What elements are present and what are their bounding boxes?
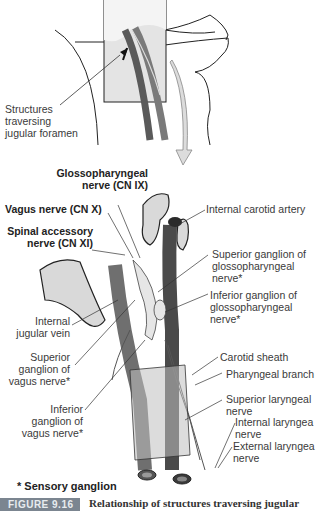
label-internal-jugular-vein: Internal jugular vein: [0, 315, 70, 339]
label-vagus-nerve: Vagus nerve (CN X): [5, 203, 102, 215]
label-superior-ganglion-glossopharyngeal: Superior ganglion of glossopharyngeal ne…: [212, 248, 306, 284]
label-superior-ganglion-vagus: Superior ganglion of vagus nerve*: [0, 351, 70, 387]
label-spinal-accessory-nerve: Spinal accessory nerve (CN XI): [0, 225, 93, 249]
label-superior-laryngeal-nerve: Superior laryngeal nerve: [226, 393, 311, 417]
figure-caption: Relationship of structures traversing ju…: [89, 497, 299, 509]
label-inferior-ganglion-vagus: Inferior ganglion of vagus nerve*: [0, 403, 83, 439]
label-internal-carotid-artery: Internal carotid artery: [206, 203, 305, 215]
label-internal-laryngeal-nerve: Internal laryngea nerve: [235, 416, 313, 440]
label-external-laryngeal-nerve: External laryngea nerve: [233, 440, 315, 464]
zoom-arrow: [170, 60, 192, 165]
label-carotid-sheath: Carotid sheath: [220, 351, 288, 363]
footnote-sensory-ganglion: * Sensory ganglion: [17, 480, 117, 492]
label-glossopharyngeal-nerve: Glossopharyngeal nerve (CN IX): [50, 167, 148, 191]
inset-label: Structures traversing jugular foramen: [5, 103, 78, 139]
label-pharyngeal-branch: Pharyngeal branch: [226, 368, 314, 380]
nerves: [133, 260, 166, 340]
label-inferior-ganglion-glossopharyngeal: Inferior ganglion of glossopharyngeal ne…: [210, 289, 297, 325]
figure-number-tag: FIGURE 9.16: [0, 498, 80, 511]
carotid-sheath: [130, 365, 190, 460]
